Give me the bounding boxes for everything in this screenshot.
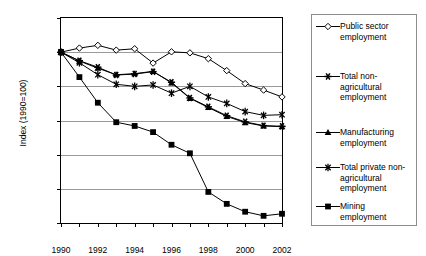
series-5 (58, 49, 285, 218)
series-3 (58, 49, 286, 129)
legend-item[interactable]: Public sector employment (316, 21, 413, 42)
filled-square-icon (316, 201, 340, 212)
x-axis-tick-label: 2002 (262, 246, 302, 255)
x-axis-tick-label: 1996 (152, 246, 192, 255)
legend-item-label: Mining employment (340, 201, 386, 222)
plot-area: 5060708090100110199019921994199619982000… (60, 17, 283, 224)
legend-item[interactable]: Total private non- agricultural employme… (316, 162, 413, 194)
x-axis-tick-label: 1992 (78, 246, 118, 255)
legend-item[interactable]: Manufacturing employment (316, 127, 413, 148)
legend-item-label: Total non- agricultural employment (340, 71, 386, 103)
x-axis-tick-label: 2000 (225, 246, 265, 255)
series-2 (57, 49, 285, 129)
legend-item[interactable]: Mining employment (316, 201, 413, 222)
chart-legend: Public sector employmentTotal non- agric… (311, 14, 417, 226)
filled-triangle-icon (316, 127, 340, 138)
legend-item-label: Public sector employment (340, 21, 389, 42)
legend-item[interactable]: Total non- agricultural employment (316, 71, 413, 103)
star-x-icon (316, 162, 340, 173)
x-axis-tick-label: 1998 (188, 246, 228, 255)
series-layer (61, 18, 286, 227)
chart-container: Index (1990=100) 50607080901001101990199… (0, 0, 426, 256)
legend-item-label: Manufacturing employment (340, 127, 394, 148)
x-axis-tick-label: 1990 (41, 246, 81, 255)
y-axis-title: Index (1990=100) (18, 38, 28, 188)
open-diamond-icon (316, 21, 340, 32)
x-axis-tick-label: 1994 (115, 246, 155, 255)
legend-item-label: Total private non- agricultural employme… (340, 162, 405, 194)
asterisk-icon (316, 71, 340, 82)
